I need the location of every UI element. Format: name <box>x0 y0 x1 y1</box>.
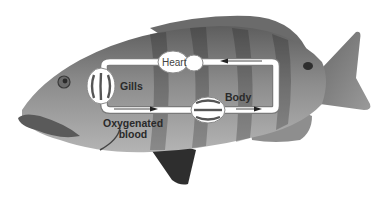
gills-organ <box>87 68 115 104</box>
label-gills: Gills <box>120 81 143 92</box>
tail-fin <box>320 32 370 110</box>
fish-circulation-diagram: Heart Gills Body Oxygenated blood <box>0 0 388 203</box>
label-heart: Heart <box>162 57 186 68</box>
label-body: Body <box>225 92 251 103</box>
fish-illustration <box>0 0 388 203</box>
label-blood: blood <box>103 129 163 140</box>
label-oxygenated-blood: Oxygenated blood <box>103 118 163 140</box>
body-capillary-organ <box>191 97 225 123</box>
